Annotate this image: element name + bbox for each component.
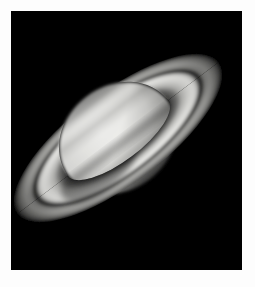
saturn-image-canvas bbox=[11, 11, 242, 270]
page-background bbox=[0, 0, 255, 287]
saturn-photograph bbox=[11, 11, 242, 270]
